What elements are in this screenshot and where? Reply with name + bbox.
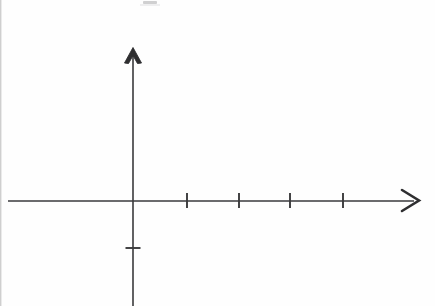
coordinate-axes-figure: [0, 0, 435, 306]
figure-background: [0, 0, 435, 306]
axes-canvas: [0, 0, 435, 306]
